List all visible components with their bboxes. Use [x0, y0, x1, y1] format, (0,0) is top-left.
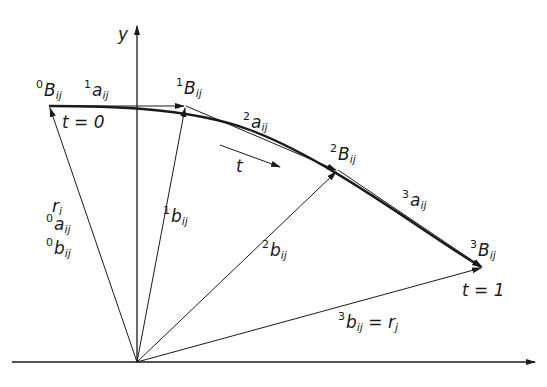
- label-B2: 2Bij: [330, 146, 356, 163]
- y-axis-label: y: [118, 26, 128, 43]
- vector-a3: [338, 170, 482, 267]
- bezier-vector-diagram: y 0Bij 1aij 1Bij 2aij 2Bij 3aij 3Bij ri …: [0, 0, 547, 387]
- label-a1: 1aij: [84, 82, 109, 99]
- vector-b1: [137, 108, 185, 362]
- label-b0: 0bij: [46, 240, 71, 257]
- label-a0: 0aij: [46, 216, 71, 233]
- t-direction-arrow: [220, 145, 280, 167]
- label-a2: 2aij: [243, 114, 268, 131]
- label-b3-eq-rj: 3bij = rj: [338, 314, 398, 331]
- label-B0: 0Bij: [36, 82, 62, 99]
- vector-b2: [137, 172, 336, 362]
- label-b2: 2bij: [262, 242, 287, 259]
- label-t1: t = 1: [462, 282, 505, 299]
- label-B3: 3Bij: [470, 242, 496, 259]
- diagram-lines: [0, 0, 547, 387]
- label-B1: 1Bij: [176, 80, 202, 97]
- vector-b3: [137, 268, 481, 362]
- label-ri: ri: [52, 198, 62, 215]
- label-b1: 1bij: [163, 208, 188, 225]
- label-a3: 3aij: [402, 192, 427, 209]
- label-t0: t = 0: [62, 114, 105, 131]
- label-t-direction: t: [236, 158, 243, 175]
